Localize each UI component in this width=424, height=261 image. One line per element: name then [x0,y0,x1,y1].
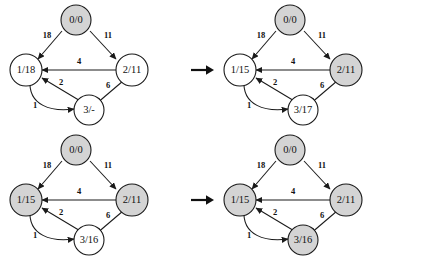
transition-arrow-1 [190,60,216,80]
node-3-label: 3/- [83,104,95,115]
edge-label-18: 18 [257,160,266,170]
node-0-label: 0/0 [283,144,296,155]
node-2-label: 2/11 [123,194,141,205]
edges-group [244,31,337,110]
edge-label-18: 18 [43,30,52,40]
edge-label-6: 6 [320,210,324,220]
node-3-label: 3/16 [80,234,99,245]
node-2-label: 2/11 [337,194,355,205]
node-1[interactable]: 1/15 [224,184,256,216]
node-3[interactable]: 3/17 [288,95,318,125]
node-0[interactable]: 0/0 [275,135,305,165]
node-0[interactable]: 0/0 [61,135,91,165]
edge-label-6: 6 [106,80,110,90]
node-1-label: 1/18 [17,64,36,75]
node-1-label: 1/15 [17,194,36,205]
node-1-label: 1/15 [231,64,250,75]
graph-panel-4: 18 11 4 2 6 1 0/0 1/15 2/11 3/16 [218,132,408,257]
right-arrow-head-icon [206,65,214,75]
edge-label-4: 4 [77,56,82,66]
edge-label-1: 1 [247,100,251,110]
edge-label-6: 6 [320,80,324,90]
node-0-label: 0/0 [283,14,296,25]
node-3[interactable]: 3/16 [288,225,318,255]
node-2[interactable]: 2/11 [116,54,148,86]
figure-canvas: 18 11 4 2 6 1 0/0 1/18 2/11 3/- [0,0,424,261]
node-1[interactable]: 1/18 [10,54,42,86]
right-arrow-head-icon [206,195,214,205]
edge-label-4: 4 [291,186,296,196]
edge-label-1: 1 [33,100,37,110]
node-2-label: 2/11 [337,64,355,75]
graph-panel-3: 18 11 4 2 6 1 0/0 1/15 2/11 3/16 [4,132,194,257]
edges-group [244,161,337,240]
transition-arrow-2 [190,190,216,210]
edge-label-11: 11 [104,30,112,40]
edge-label-1: 1 [33,230,37,240]
node-0[interactable]: 0/0 [61,5,91,35]
edge-label-1: 1 [247,230,251,240]
edge-label-11: 11 [104,160,112,170]
edge-label-6: 6 [106,210,110,220]
graph-panel-2: 18 11 4 2 6 1 0/0 1/15 2/11 3/17 [218,2,408,127]
node-2[interactable]: 2/11 [330,184,362,216]
edge-label-2: 2 [273,77,277,87]
node-1-label: 1/15 [231,194,250,205]
node-0-label: 0/0 [69,144,82,155]
node-2[interactable]: 2/11 [330,54,362,86]
node-0-label: 0/0 [69,14,82,25]
edge-label-2: 2 [59,207,63,217]
node-3-label: 3/16 [294,234,313,245]
edge-label-4: 4 [77,186,82,196]
node-3[interactable]: 3/16 [74,225,104,255]
edge-label-2: 2 [59,77,63,87]
node-2[interactable]: 2/11 [116,184,148,216]
graph-panel-1: 18 11 4 2 6 1 0/0 1/18 2/11 3/- [4,2,194,127]
edge-label-11: 11 [318,30,326,40]
node-1[interactable]: 1/15 [10,184,42,216]
edge-label-18: 18 [43,160,52,170]
edge-label-2: 2 [273,207,277,217]
node-0[interactable]: 0/0 [275,5,305,35]
node-2-label: 2/11 [123,64,141,75]
edges-group [30,31,123,110]
node-3-label: 3/17 [294,104,313,115]
edge-label-11: 11 [318,160,326,170]
node-1[interactable]: 1/15 [224,54,256,86]
edge-label-18: 18 [257,30,266,40]
node-3[interactable]: 3/- [74,95,104,125]
edge-label-4: 4 [291,56,296,66]
edges-group [30,161,123,240]
